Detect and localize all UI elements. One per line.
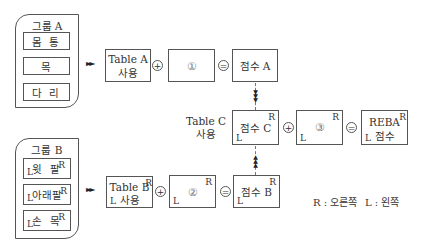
equals-icon: = — [346, 122, 357, 133]
down-arrow-icon: ▼▼▼ — [250, 90, 261, 102]
score-c-box: 점수 C R L — [232, 110, 279, 145]
table-b-right-mark: R — [145, 178, 152, 188]
score-b-box: 점수 B R L — [233, 175, 280, 208]
plus-icon: + — [283, 122, 294, 133]
left-mark: L — [27, 167, 35, 177]
box-1-label: ① — [169, 60, 214, 73]
table-a-line1: Table A — [106, 53, 150, 66]
score-c-left-mark: L — [236, 133, 242, 143]
group-a-title: 그룹 A — [16, 18, 78, 33]
right-mark: R — [58, 212, 67, 222]
table-b-left-mark: L — [110, 196, 116, 206]
box-2: ② R L — [169, 175, 216, 208]
left-mark: L — [27, 193, 33, 203]
plus-icon: + — [155, 186, 166, 197]
group-a-item-legs: 다 리 — [23, 83, 70, 101]
box-3-left-mark: L — [300, 133, 306, 143]
score-a-label: 점수 A — [233, 60, 277, 73]
score-c-right-mark: R — [268, 112, 275, 122]
equals-icon: = — [218, 60, 229, 71]
table-a-box: Table A 사용 — [105, 49, 151, 82]
reba-right-mark: R — [399, 112, 406, 122]
table-a-line2: 사용 — [106, 67, 150, 80]
right-mark: R — [60, 186, 67, 196]
legend-left: L : 왼쪽 — [365, 194, 399, 209]
box-3-right-mark: R — [332, 112, 339, 122]
score-b-right-mark: R — [269, 177, 276, 187]
group-b-item-lower-arm: 아래팔 R L — [23, 184, 71, 205]
lower-arm-label: 아래팔 — [32, 187, 62, 202]
box-2-left-mark: L — [173, 196, 179, 206]
group-b-item-wrist: 손 목 R L — [23, 210, 71, 231]
group-b-item-upper-arm: 윗 팔 R L — [23, 158, 71, 179]
right-mark: R — [58, 160, 67, 170]
plus-icon: + — [152, 60, 163, 71]
equals-icon: = — [220, 186, 231, 197]
score-a-box: 점수 A — [232, 49, 278, 82]
up-arrow-icon: ▲▲▲ — [250, 155, 261, 167]
right-arrow-icon: ►► — [86, 59, 92, 68]
box-3: ③ R L — [296, 110, 343, 145]
box-2-right-mark: R — [205, 177, 212, 187]
legend-right: R : 오른쪽 — [313, 194, 357, 209]
box-1: ① — [168, 49, 215, 82]
score-b-left-mark: L — [237, 196, 243, 206]
reba-left-mark: L — [365, 133, 371, 143]
table-c-line1: Table C — [184, 115, 228, 128]
reba-score-box: REBA 점수 R L — [361, 110, 408, 145]
group-a-item-trunk: 몸 통 — [23, 32, 70, 50]
table-c-label: Table C 사용 — [184, 115, 228, 141]
group-b-title: 그룹 B — [16, 142, 78, 157]
left-mark: L — [27, 219, 35, 229]
group-a-item-neck: 목 — [23, 57, 70, 75]
table-c-line2: 사용 — [184, 128, 228, 141]
table-b-box: Table B 사용 R L — [106, 176, 153, 208]
right-arrow-icon: ►► — [86, 185, 92, 194]
